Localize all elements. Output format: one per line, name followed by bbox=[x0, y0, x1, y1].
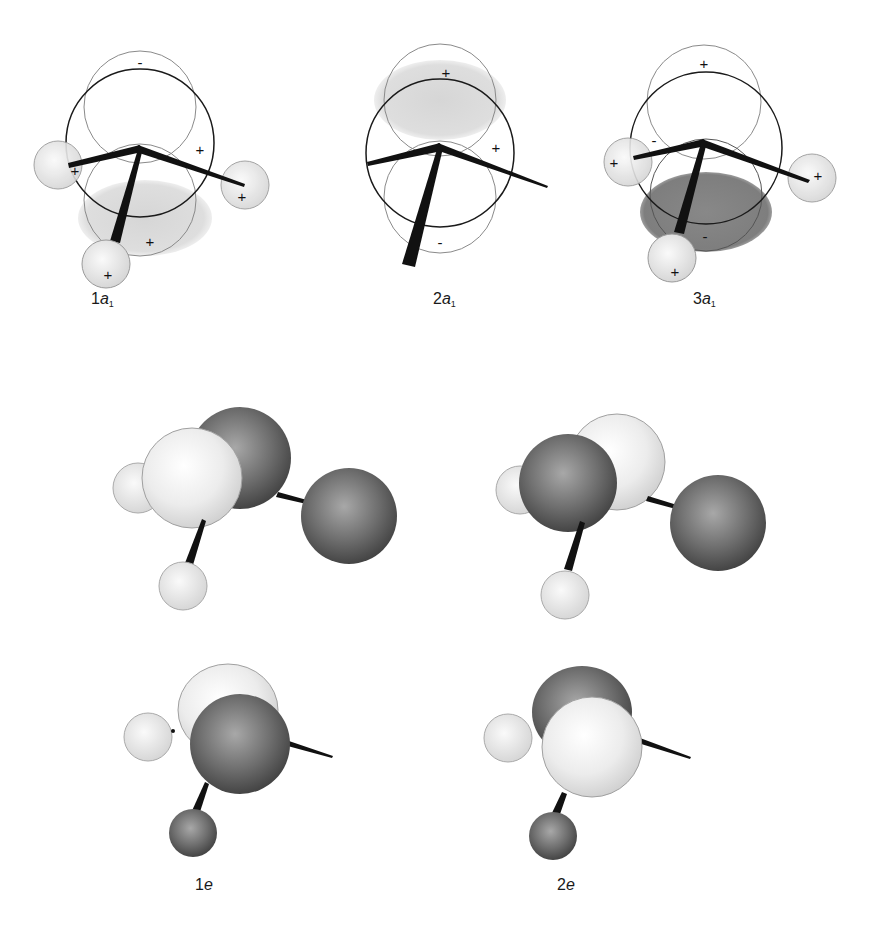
hydrogen-bottom bbox=[541, 571, 589, 619]
bond-right bbox=[284, 740, 333, 758]
bond-dot-left bbox=[171, 729, 175, 733]
hydrogen-left bbox=[484, 714, 532, 762]
bond-right bbox=[638, 738, 691, 759]
sign-sphere: + bbox=[492, 139, 501, 156]
dark-sphere-bottom bbox=[529, 812, 577, 860]
hydrogen-bottom bbox=[159, 562, 207, 610]
sign-upper-lobe: - bbox=[138, 54, 143, 71]
molecular-orbital-figure: - + + + + + + + - + - + + - + bbox=[0, 0, 869, 930]
sign-upper-lobe: + bbox=[700, 55, 709, 72]
label-1e: 1e bbox=[195, 876, 213, 894]
label-symbol: a bbox=[702, 290, 711, 307]
sign-upper-lobe: + bbox=[442, 64, 451, 81]
sign-lower-lobe: - bbox=[438, 234, 443, 251]
hydrogen-left bbox=[124, 713, 172, 761]
panel-2e bbox=[484, 666, 691, 860]
label-subscript: 1 bbox=[451, 299, 456, 309]
bond-left bbox=[367, 143, 442, 166]
label-number: 3 bbox=[693, 290, 702, 307]
label-number: 1 bbox=[195, 876, 204, 893]
light-lobe-front bbox=[542, 697, 642, 797]
sign-hydrogen-bottom: + bbox=[104, 266, 113, 283]
dark-lobe-front bbox=[519, 434, 617, 532]
sign-hydrogen-bottom: + bbox=[671, 263, 680, 280]
dark-sphere-bottom bbox=[169, 809, 217, 857]
sign-sphere: + bbox=[196, 141, 205, 158]
sign-lower-lobe: - bbox=[703, 228, 708, 245]
sign-hydrogen-right: + bbox=[814, 167, 823, 184]
label-symbol: a bbox=[100, 290, 109, 307]
dark-sphere-right bbox=[670, 475, 766, 571]
panel-e-orbital-3d-left bbox=[113, 407, 397, 610]
positive-lobe-shading bbox=[374, 60, 506, 140]
label-2a1: 2a1 bbox=[433, 290, 456, 309]
label-number: 2 bbox=[433, 290, 442, 307]
panel-1a1: - + + + + + bbox=[34, 51, 269, 288]
label-subscript: 1 bbox=[109, 299, 114, 309]
label-symbol: e bbox=[566, 876, 575, 893]
light-lobe-front bbox=[142, 428, 242, 528]
dark-sphere-right bbox=[301, 468, 397, 564]
label-symbol: e bbox=[204, 876, 213, 893]
label-symbol: a bbox=[442, 290, 451, 307]
label-3a1: 3a1 bbox=[693, 290, 716, 309]
label-2e: 2e bbox=[557, 876, 575, 894]
label-number: 1 bbox=[91, 290, 100, 307]
label-1a1: 1a1 bbox=[91, 290, 114, 309]
panel-2a1: + + - bbox=[366, 44, 548, 267]
panel-e-orbital-3d-right bbox=[496, 414, 766, 619]
panel-1e bbox=[124, 664, 333, 857]
sign-hydrogen-left: + bbox=[71, 162, 80, 179]
panel-3a1: + - + + - + bbox=[604, 45, 836, 282]
sign-hydrogen-left: + bbox=[610, 154, 619, 171]
sign-hydrogen-right: + bbox=[238, 188, 247, 205]
dark-lobe-front bbox=[190, 694, 290, 794]
sign-lower-lobe: + bbox=[146, 233, 155, 250]
label-number: 2 bbox=[557, 876, 566, 893]
sign-sphere: - bbox=[652, 132, 657, 149]
label-subscript: 1 bbox=[711, 299, 716, 309]
